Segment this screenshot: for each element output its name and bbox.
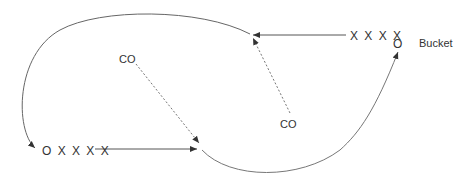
co-left-label: CO xyxy=(119,53,136,65)
bucket-label: Bucket xyxy=(419,37,453,49)
bucket-o-label: O xyxy=(393,37,404,51)
dotted-arrow-co-left xyxy=(136,64,199,143)
loop-curve-lower xyxy=(202,52,398,173)
co-right-label: CO xyxy=(280,118,297,130)
bottom-queue-label: O X X X X xyxy=(42,144,110,158)
loop-curve-outer xyxy=(22,14,250,148)
dotted-arrow-co-right xyxy=(253,38,290,113)
diagram-canvas: X X X X O Bucket CO CO O X X X X xyxy=(0,0,476,178)
